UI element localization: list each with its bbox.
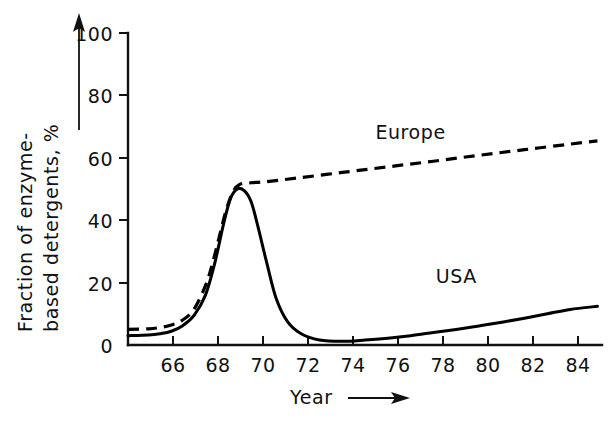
x-tick-label-68: 68 <box>205 354 230 376</box>
series-label-usa: USA <box>436 265 477 287</box>
x-tick-label-70: 70 <box>250 354 275 376</box>
x-tick-label-84: 84 <box>565 354 590 376</box>
y-tick-label-100: 100 <box>75 23 113 45</box>
x-tick-label-82: 82 <box>520 354 545 376</box>
x-tick-label-74: 74 <box>340 354 365 376</box>
y-axis-title-line1: Fraction of enzyme- <box>14 132 36 332</box>
y-axis-title-line2: based detergents, % <box>40 124 62 332</box>
series-label-europe: Europe <box>375 121 445 143</box>
x-tick-label-78: 78 <box>430 354 455 376</box>
y-axis-tick-labels: 100 80 60 40 20 0 <box>75 23 113 357</box>
x-axis-title: Year <box>289 386 333 408</box>
x-tick-label-66: 66 <box>160 354 185 376</box>
x-tick-label-76: 76 <box>385 354 410 376</box>
x-axis-tick-labels: 66 68 70 72 74 76 78 80 82 84 <box>160 354 590 376</box>
y-tick-label-40: 40 <box>88 210 113 232</box>
chart-figure: Fraction of enzyme-based detergents, % F… <box>0 0 616 427</box>
x-axis-arrow-icon <box>348 392 410 404</box>
y-axis-title-group: Fraction of enzyme- based detergents, % <box>14 124 62 332</box>
x-tick-label-80: 80 <box>475 354 500 376</box>
enzyme-detergent-line-chart: Fraction of enzyme-based detergents, % F… <box>0 0 616 427</box>
series-line-usa <box>128 188 597 341</box>
y-tick-label-60: 60 <box>88 148 113 170</box>
y-axis-ticks <box>119 33 128 283</box>
y-tick-label-20: 20 <box>88 273 113 295</box>
x-tick-label-72: 72 <box>295 354 320 376</box>
y-tick-label-0: 0 <box>100 335 113 357</box>
y-tick-label-80: 80 <box>88 85 113 107</box>
series-line-europe <box>128 141 597 329</box>
